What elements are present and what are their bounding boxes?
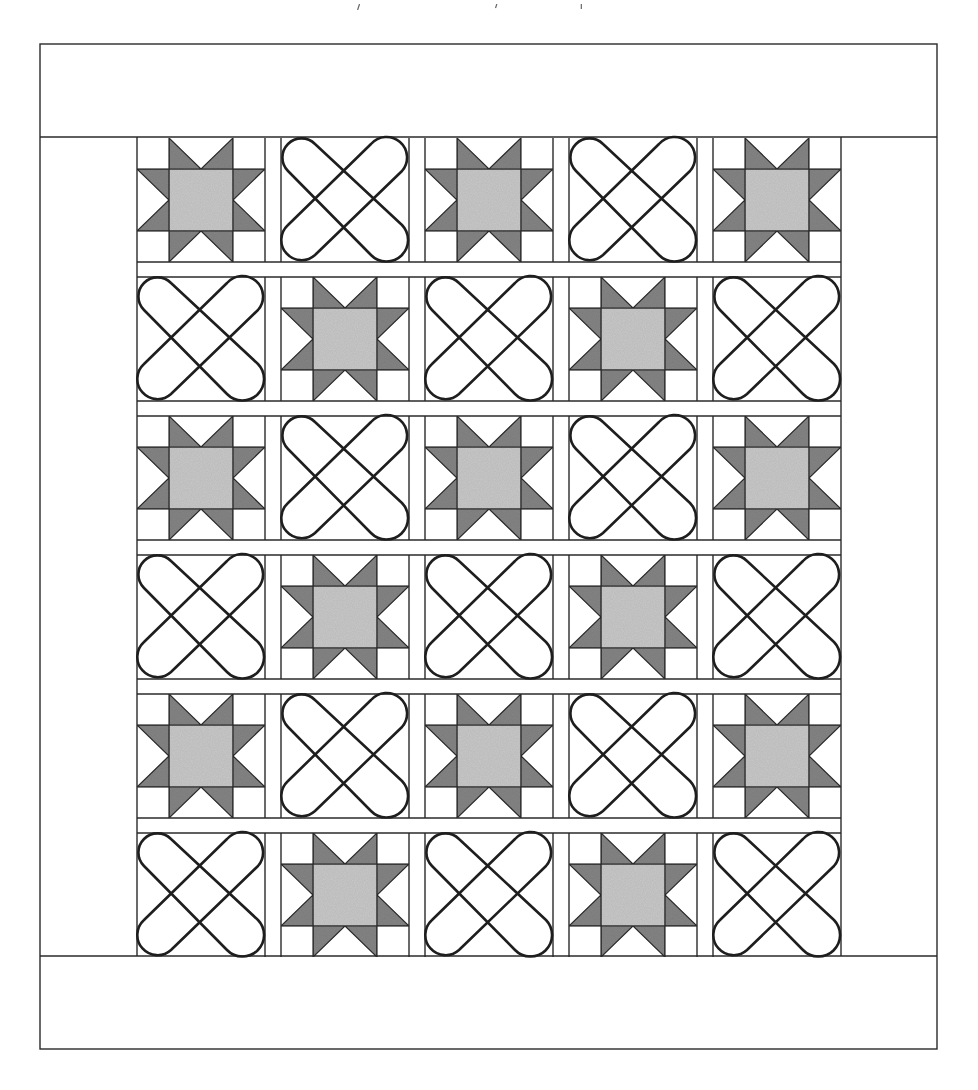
star-point <box>489 787 521 818</box>
crossed-bands <box>137 554 264 679</box>
star-point <box>745 231 777 262</box>
star-point <box>665 339 697 370</box>
star-point <box>313 648 345 679</box>
x-block-r6c1 <box>137 832 264 957</box>
star-point <box>777 138 809 169</box>
star-point <box>233 447 265 478</box>
star-point <box>201 787 233 818</box>
star-point <box>569 339 601 370</box>
star-center-square <box>745 725 809 787</box>
crossed-bands <box>425 832 552 957</box>
star-point <box>201 231 233 262</box>
crossed-bands <box>569 137 696 262</box>
star-point <box>137 725 169 756</box>
star-point <box>377 617 409 648</box>
star-point <box>569 586 601 617</box>
star-point <box>233 478 265 509</box>
star-point <box>425 200 457 231</box>
star-point <box>713 725 745 756</box>
x-block-r2c1 <box>137 276 264 401</box>
star-point <box>569 308 601 339</box>
star-point <box>521 478 553 509</box>
crossed-bands <box>569 693 696 818</box>
star-point <box>601 833 633 864</box>
star-point <box>137 447 169 478</box>
star-center-square <box>457 447 521 509</box>
star-point <box>601 277 633 308</box>
star-point <box>713 447 745 478</box>
star-point <box>345 370 377 401</box>
star-point <box>345 555 377 586</box>
star-block-r3c5 <box>713 416 841 540</box>
star-point <box>745 509 777 540</box>
star-point <box>569 864 601 895</box>
crossed-bands <box>281 137 408 262</box>
star-point <box>665 586 697 617</box>
star-block-r4c2 <box>281 555 409 679</box>
star-point <box>233 200 265 231</box>
star-center-square <box>169 725 233 787</box>
crossed-bands <box>281 415 408 540</box>
crossed-bands <box>713 554 840 679</box>
star-point <box>665 864 697 895</box>
star-point <box>377 339 409 370</box>
star-point <box>169 231 201 262</box>
star-point <box>457 694 489 725</box>
star-block-r1c1 <box>137 138 265 262</box>
star-center-square <box>313 864 377 926</box>
star-block-r6c2 <box>281 833 409 957</box>
quilt-diagram <box>0 0 978 1090</box>
star-point <box>201 138 233 169</box>
star-point <box>777 231 809 262</box>
star-point <box>665 895 697 926</box>
star-center-square <box>169 447 233 509</box>
star-point <box>521 756 553 787</box>
star-point <box>745 694 777 725</box>
x-block-r4c5 <box>713 554 840 679</box>
star-center-square <box>457 169 521 231</box>
star-point <box>713 478 745 509</box>
star-point <box>457 509 489 540</box>
star-block-r3c3 <box>425 416 553 540</box>
star-block-r6c4 <box>569 833 697 957</box>
star-point <box>633 648 665 679</box>
star-point <box>713 169 745 200</box>
star-point <box>665 308 697 339</box>
star-point <box>745 787 777 818</box>
star-point <box>809 447 841 478</box>
star-point <box>169 787 201 818</box>
star-point <box>633 370 665 401</box>
star-point <box>281 586 313 617</box>
star-point <box>777 416 809 447</box>
star-point <box>377 895 409 926</box>
star-point <box>457 231 489 262</box>
x-block-r2c3 <box>425 276 552 401</box>
star-point <box>633 277 665 308</box>
star-point <box>425 478 457 509</box>
x-block-r5c4 <box>569 693 696 818</box>
star-center-square <box>169 169 233 231</box>
star-block-r2c2 <box>281 277 409 401</box>
star-point <box>569 617 601 648</box>
star-point <box>457 787 489 818</box>
star-point <box>169 509 201 540</box>
star-block-r5c5 <box>713 694 841 818</box>
star-point <box>425 169 457 200</box>
star-point <box>377 864 409 895</box>
star-point <box>281 339 313 370</box>
star-point <box>633 833 665 864</box>
star-point <box>345 277 377 308</box>
star-point <box>809 478 841 509</box>
star-point <box>313 926 345 957</box>
star-point <box>201 694 233 725</box>
star-point <box>745 416 777 447</box>
star-point <box>425 756 457 787</box>
crossed-bands <box>425 554 552 679</box>
crossed-bands <box>713 832 840 957</box>
x-block-r6c3 <box>425 832 552 957</box>
star-center-square <box>457 725 521 787</box>
star-center-square <box>601 864 665 926</box>
x-block-r1c4 <box>569 137 696 262</box>
quilt-blocks <box>137 137 841 957</box>
star-point <box>809 756 841 787</box>
